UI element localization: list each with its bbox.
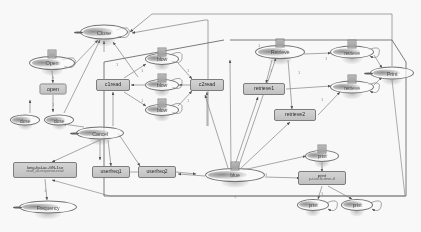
node-frequency[interactable]: Frequency [19, 201, 77, 214]
node-label: blue [230, 172, 239, 178]
node-close_top[interactable]: Close [80, 25, 128, 40]
node-label: close [20, 117, 31, 123]
node-label: c2read [199, 82, 215, 88]
node-cancel_hub[interactable]: Cancel [76, 127, 124, 140]
edge-label: 1 [321, 191, 323, 196]
node-handle-icon [231, 162, 240, 171]
edge-label: 1 [270, 68, 272, 73]
diagram-canvas: CloseOpenopencloseclosec1readblowblowblo… [0, 0, 421, 232]
node-usefreq1[interactable]: userfreq1 [92, 166, 130, 178]
edge-label: 1 [321, 97, 323, 102]
node-print_box[interactable]: printp-t-raf-fit-timer-tf [298, 171, 346, 185]
edge-label: 1 [141, 68, 143, 73]
node-sublabel: read_all-response-read [26, 170, 63, 174]
node-close_ell1[interactable]: close [10, 115, 40, 126]
node-retrieve1[interactable]: retrieve1 [243, 83, 285, 95]
node-c1read[interactable]: c1read [96, 79, 130, 91]
node-close_ell2[interactable]: close [44, 115, 74, 126]
node-print_ell[interactable]: Print [370, 67, 414, 80]
edge-label: 1 [141, 98, 143, 103]
node-handle-icon [158, 47, 167, 56]
node-label: open [47, 86, 59, 92]
node-print_d2[interactable]: print [341, 199, 373, 211]
edge-label: 1 [258, 43, 260, 48]
node-label: Frequency [37, 204, 60, 210]
node-getfreq_box[interactable]: long-hal-ac-GN-1seread_all-response-read [13, 162, 77, 178]
node-label: print [309, 202, 318, 208]
node-label: retrieve2 [285, 112, 305, 117]
edge-label: 1 [265, 172, 267, 177]
node-label: userfreq1 [100, 169, 121, 174]
node-label: Close [97, 29, 111, 35]
edge-label: 1 [321, 166, 323, 171]
edge-label: 1 [187, 98, 189, 103]
node-open_box[interactable]: open [40, 84, 67, 95]
node-handle-icon [276, 39, 285, 48]
edge-label: 1 [44, 188, 46, 193]
node-print_d1[interactable]: print [297, 199, 329, 211]
node-label: Retrieve [271, 49, 289, 55]
node-label: Print [387, 70, 398, 76]
node-label: blow [157, 107, 167, 113]
node-label: Open [46, 60, 59, 66]
node-handle-icon [348, 39, 357, 48]
node-label: Cancel [92, 130, 108, 136]
node-label: c1read [105, 82, 121, 88]
node-label: retrieve [344, 49, 360, 55]
node-handle-icon [158, 98, 167, 107]
node-label: blow [157, 82, 167, 88]
node-c2read[interactable]: c2read [190, 79, 224, 91]
edge-label: 1 [116, 62, 118, 67]
edge-label: 1 [52, 75, 54, 80]
node-label: print [318, 153, 327, 159]
node-sublabel: p-t-raf-fit-timer-tf [309, 178, 335, 182]
node-handle-icon [158, 73, 167, 82]
edge-label: 1 [298, 70, 300, 75]
node-label: retrieve1 [254, 86, 274, 91]
edge-label: 1 [325, 56, 327, 61]
node-handle-icon [48, 50, 57, 59]
edge-label: 1 [187, 68, 189, 73]
node-label: print [353, 202, 362, 208]
node-label: retrieve [344, 84, 360, 90]
node-handle-icon [318, 144, 327, 153]
node-usefreq2[interactable]: userfreq2 [138, 166, 176, 178]
edge-label: 1 [234, 194, 236, 199]
node-handle-icon [348, 74, 357, 83]
node-label: blow [157, 56, 167, 62]
node-retrieve2[interactable]: retrieve2 [274, 109, 316, 121]
node-label: userfreq2 [146, 169, 167, 174]
node-label: close [54, 117, 65, 123]
edge-label: 1 [52, 102, 54, 107]
